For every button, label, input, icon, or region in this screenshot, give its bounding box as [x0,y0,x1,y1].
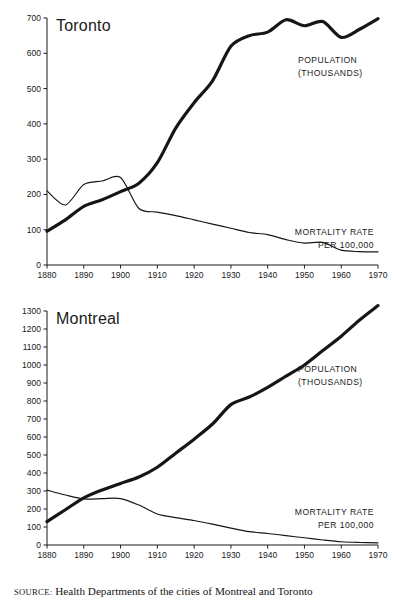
y-tick-label: 900 [27,378,41,388]
y-tick-label: 500 [27,84,41,94]
toronto-population-label-line1: POPULATION [298,55,357,65]
x-tick-label: 1880 [38,550,57,560]
montreal-mortality-label-line1: MORTALITY RATE [295,507,374,517]
chart-panel-toronto: Toronto010020030040050060070018801890190… [0,0,395,295]
y-tick-label: 1100 [23,342,42,352]
chart-title-montreal: Montreal [56,310,120,327]
y-tick-label: 400 [27,468,41,478]
x-tick-label: 1910 [148,270,167,280]
x-tick-label: 1910 [148,550,167,560]
dual-line-chart-figure: Toronto010020030040050060070018801890190… [0,0,395,609]
x-tick-label: 1900 [111,270,130,280]
y-tick-label: 600 [27,48,41,58]
x-tick-label: 1920 [185,270,204,280]
y-tick-label: 300 [27,154,41,164]
y-tick-label: 1300 [22,306,41,316]
toronto-mortality-label-line2: PER 100,000 [318,240,374,250]
montreal-mortality-label-line2: PER 100,000 [318,520,374,530]
y-tick-label: 500 [27,450,41,460]
montreal-population-label: POPULATION(THOUSANDS) [298,364,363,387]
x-tick-label: 1890 [74,550,93,560]
chart-title-toronto: Toronto [56,17,111,34]
y-tick-label: 100 [27,225,41,235]
x-tick-label: 1930 [221,270,240,280]
montreal-chart-svg: Montreal01002003004005006007008009001000… [0,295,395,580]
x-tick-label: 1970 [369,270,388,280]
population-series-line [47,306,378,522]
x-tick-label: 1950 [295,550,314,560]
y-tick-label: 200 [27,189,41,199]
y-tick-label: 400 [27,119,41,129]
montreal-mortality-label: MORTALITY RATEPER 100,000 [295,507,374,530]
y-tick-label: 0 [36,540,41,550]
y-tick-label: 700 [27,13,41,23]
montreal-population-label-line1: POPULATION [298,364,357,374]
y-tick-label: 700 [27,414,41,424]
y-tick-label: 1200 [22,324,41,334]
toronto-population-label-line2: (THOUSANDS) [298,68,363,78]
x-tick-label: 1950 [295,270,314,280]
x-tick-label: 1960 [332,270,351,280]
population-series-line [47,19,378,231]
y-tick-label: 1000 [22,360,41,370]
x-tick-label: 1880 [38,270,57,280]
x-tick-label: 1930 [221,550,240,560]
y-tick-label: 300 [27,486,41,496]
y-tick-label: 0 [36,260,41,270]
x-tick-label: 1890 [74,270,93,280]
toronto-mortality-label-line1: MORTALITY RATE [295,227,374,237]
source-text: Health Departments of the cities of Mont… [55,585,313,597]
x-tick-label: 1900 [111,550,130,560]
chart-panel-montreal: Montreal01002003004005006007008009001000… [0,295,395,580]
y-tick-label: 600 [27,432,41,442]
toronto-mortality-label: MORTALITY RATEPER 100,000 [295,227,374,250]
y-tick-label: 800 [27,396,41,406]
source-keyword: SOURCE: [14,587,52,597]
y-tick-label: 100 [27,522,41,532]
source-note: SOURCE: Health Departments of the cities… [14,585,395,597]
toronto-chart-svg: Toronto010020030040050060070018801890190… [0,0,395,295]
montreal-population-label-line2: (THOUSANDS) [298,377,363,387]
x-tick-label: 1970 [369,550,388,560]
x-tick-label: 1940 [258,550,277,560]
y-tick-label: 200 [27,504,41,514]
toronto-population-label: POPULATION(THOUSANDS) [298,55,363,78]
x-tick-label: 1960 [332,550,351,560]
x-tick-label: 1920 [185,550,204,560]
x-tick-label: 1940 [258,270,277,280]
